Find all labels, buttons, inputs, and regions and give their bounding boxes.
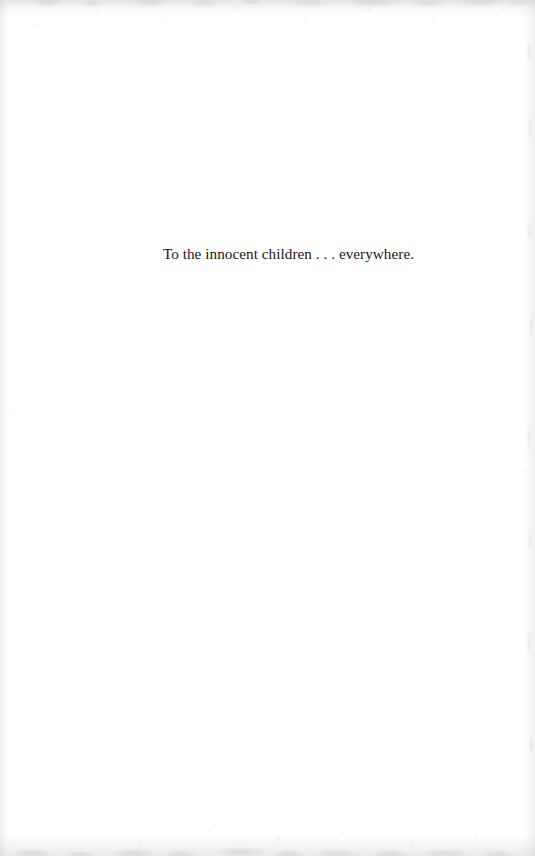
scan-edge-grain-left <box>0 0 10 856</box>
scan-edge-grain-right-detail <box>526 0 535 856</box>
document-page: To the innocent children . . . everywher… <box>0 0 535 856</box>
dedication-text: To the innocent children . . . everywher… <box>163 243 414 265</box>
scan-edge-smudge-top <box>0 0 535 16</box>
scan-edge-blotch-bottom <box>0 838 535 856</box>
scan-speckle-texture <box>0 0 535 856</box>
scan-edge-grain-right <box>523 0 535 856</box>
scan-edge-smudge-bottom <box>0 834 535 856</box>
dedication-block: To the innocent children . . . everywher… <box>0 243 535 265</box>
scan-edge-blotch-top <box>0 0 535 14</box>
